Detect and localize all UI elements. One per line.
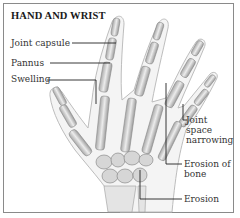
label-joint-space-line3: narrowing [186, 135, 233, 145]
label-joint-capsule: Joint capsule [11, 38, 70, 48]
label-erosion-of-bone-line1: Erosion of [184, 159, 231, 169]
label-pannus: Pannus [11, 58, 44, 68]
diagram-title: HAND AND WRIST [11, 10, 106, 21]
label-joint-space-line1: Joint [186, 115, 207, 125]
label-erosion-of-bone-line2: bone [184, 169, 206, 179]
label-joint-space-line2: space [186, 125, 212, 135]
hand-skeleton-illustration [0, 0, 240, 218]
label-swelling: Swelling [11, 74, 50, 84]
label-erosion: Erosion [184, 194, 219, 204]
